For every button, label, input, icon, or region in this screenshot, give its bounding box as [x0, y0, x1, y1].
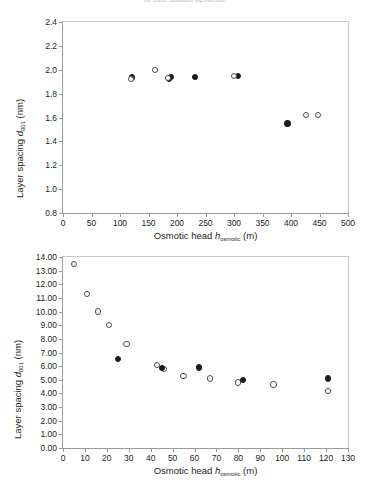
y-tick-mark	[59, 165, 63, 166]
y-tick-mark	[59, 46, 63, 47]
figure-container: to cure sodium bentonite Layer spacing d…	[0, 0, 371, 493]
data-point-filled	[240, 377, 246, 383]
x-tick-mark	[216, 448, 217, 452]
data-point-filled	[115, 356, 121, 362]
cropped-caption-sliver: to cure sodium bentonite	[92, 0, 278, 8]
plot-area-bottom: 0.001.002.003.004.005.006.007.008.009.00…	[62, 256, 349, 449]
x-tick-label: 80	[234, 454, 243, 463]
y-tick-label: 0.00	[40, 444, 57, 453]
y-tick-label: 13.00	[36, 267, 57, 276]
x-tick-mark	[282, 448, 283, 452]
data-point-open	[123, 341, 129, 347]
chart-panel-bottom: Layer spacing d001 (nm) 0.001.002.003.00…	[0, 243, 371, 493]
x-tick-mark	[195, 448, 196, 452]
y-tick-mark	[59, 284, 63, 285]
x-tick-label: 500	[341, 219, 355, 228]
data-point-filled	[192, 74, 198, 80]
y-tick-label: 4.00	[40, 389, 57, 398]
x-tick-mark	[348, 213, 349, 217]
x-tick-mark	[263, 213, 264, 217]
data-point-open	[152, 67, 158, 73]
y-tick-label: 1.6	[45, 114, 57, 123]
y-tick-label: 11.00	[36, 294, 57, 303]
data-point-open	[95, 308, 101, 314]
y-tick-mark	[59, 380, 63, 381]
y-tick-label: 1.0	[45, 185, 57, 194]
chart-panel-top: Layer spacing d001 (nm) 0.81.01.21.41.61…	[0, 8, 371, 243]
x-tick-label: 10	[80, 454, 89, 463]
y-tick-label: 1.8	[45, 90, 57, 99]
y-tick-label: 0.8	[45, 209, 57, 218]
x-tick-mark	[291, 213, 292, 217]
x-tick-mark	[304, 448, 305, 452]
x-axis-title-bottom: Osmotic head hosmotic (m)	[62, 465, 349, 476]
y-tick-mark	[59, 407, 63, 408]
y-tick-mark	[59, 434, 63, 435]
x-tick-label: 0	[61, 219, 66, 228]
y-tick-label: 12.00	[36, 280, 57, 289]
x-tick-mark	[173, 448, 174, 452]
x-tick-mark	[326, 448, 327, 452]
data-point-filled	[196, 364, 202, 370]
y-tick-label: 5.00	[40, 376, 57, 385]
x-tick-mark	[85, 448, 86, 452]
y-tick-label: 8.00	[40, 335, 57, 344]
data-point-open	[303, 112, 309, 118]
y-tick-mark	[59, 94, 63, 95]
x-tick-mark	[107, 448, 108, 452]
y-tick-mark	[59, 366, 63, 367]
x-tick-label: 200	[170, 219, 184, 228]
x-tick-label: 250	[198, 219, 212, 228]
x-tick-label: 110	[297, 454, 311, 463]
x-tick-mark	[320, 213, 321, 217]
x-tick-label: 50	[87, 219, 96, 228]
y-tick-label: 1.2	[45, 161, 57, 170]
y-tick-label: 3.00	[40, 403, 57, 412]
x-tick-label: 130	[341, 454, 355, 463]
y-tick-mark	[59, 70, 63, 71]
x-tick-label: 120	[319, 454, 333, 463]
y-tick-mark	[59, 312, 63, 313]
x-tick-mark	[63, 213, 64, 217]
y-tick-mark	[59, 257, 63, 258]
y-tick-mark	[59, 393, 63, 394]
y-tick-mark	[59, 339, 63, 340]
data-point-open	[325, 388, 331, 394]
x-tick-mark	[348, 448, 349, 452]
y-tick-label: 2.0	[45, 66, 57, 75]
x-tick-label: 60	[190, 454, 199, 463]
data-point-open	[128, 76, 134, 82]
x-tick-mark	[177, 213, 178, 217]
data-point-filled	[284, 120, 290, 126]
cropped-caption-text: to cure sodium bentonite	[92, 0, 278, 4]
data-point-open	[71, 261, 77, 267]
y-tick-label: 10.00	[36, 308, 57, 317]
x-tick-label: 70	[212, 454, 221, 463]
y-tick-mark	[59, 325, 63, 326]
y-tick-label: 7.00	[40, 349, 57, 358]
y-tick-label: 2.2	[45, 42, 57, 51]
y-tick-label: 2.00	[40, 417, 57, 426]
y-axis-title-bottom: Layer spacing d001 (nm)	[12, 340, 23, 439]
x-tick-mark	[234, 213, 235, 217]
x-tick-mark	[260, 448, 261, 452]
data-point-open	[180, 373, 186, 379]
y-tick-mark	[59, 271, 63, 272]
y-tick-mark	[59, 298, 63, 299]
data-point-open	[270, 381, 276, 387]
data-point-open	[315, 112, 321, 118]
x-tick-label: 0	[61, 454, 66, 463]
y-tick-label: 1.00	[40, 430, 57, 439]
y-tick-mark	[59, 421, 63, 422]
y-tick-label: 2.4	[45, 18, 57, 27]
x-axis-title-top: Osmotic head hosmotic (m)	[62, 230, 349, 241]
data-point-filled	[325, 375, 331, 381]
x-tick-mark	[129, 448, 130, 452]
x-tick-label: 90	[256, 454, 265, 463]
data-point-open	[207, 375, 213, 381]
y-tick-mark	[59, 353, 63, 354]
x-tick-label: 30	[124, 454, 133, 463]
y-tick-label: 6.00	[40, 362, 57, 371]
x-tick-mark	[149, 213, 150, 217]
y-tick-label: 9.00	[40, 321, 57, 330]
